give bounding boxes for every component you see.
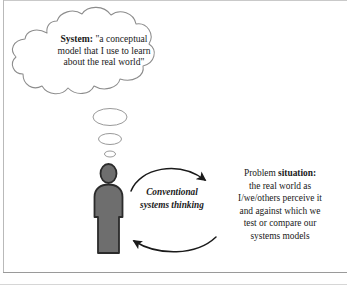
thought-bubble-lead-label: System: bbox=[60, 33, 93, 44]
cycle-label: Conventional systems thinking bbox=[128, 186, 216, 211]
thought-bubble-quote-line-3: about the real world" bbox=[64, 56, 145, 67]
arrow-problem-to-person bbox=[134, 237, 216, 252]
cycle-label-line-1: Conventional bbox=[146, 187, 198, 197]
thought-bubble-quote-line-1: "a conceptual bbox=[95, 33, 147, 44]
problem-situation-line-1: the real world as bbox=[249, 181, 311, 191]
problem-situation-line-3: and against which we bbox=[240, 206, 321, 216]
problem-situation-heading-regular: Problem bbox=[244, 168, 278, 178]
figure-root: System: "a conceptual model that I use t… bbox=[0, 0, 347, 286]
thought-trail-bubbles bbox=[93, 109, 127, 158]
thought-bubble-text: System: "a conceptual model that I use t… bbox=[24, 33, 184, 68]
problem-situation-heading-bold: situation: bbox=[278, 168, 316, 178]
problem-situation-block: Problem situation: the real world as I/w… bbox=[218, 167, 342, 242]
problem-situation-line-2: I/we/others perceive it bbox=[238, 193, 322, 203]
problem-situation-line-5: systems models bbox=[250, 231, 309, 241]
problem-situation-line-4: test or compare our bbox=[244, 218, 317, 228]
observer-figure bbox=[95, 164, 123, 253]
cycle-label-line-2: systems thinking bbox=[140, 200, 204, 210]
thought-bubble-quote-line-2: model that I use to learn bbox=[58, 45, 151, 56]
